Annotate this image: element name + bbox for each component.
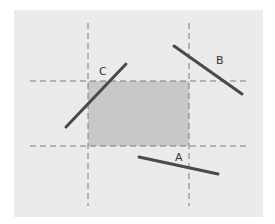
diagram-canvas: A B C xyxy=(0,0,275,224)
label-a: A xyxy=(175,151,183,164)
shaded-region xyxy=(88,81,189,146)
label-c: C xyxy=(99,65,107,78)
label-b: B xyxy=(216,54,224,67)
